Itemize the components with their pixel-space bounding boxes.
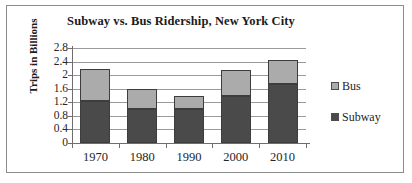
y-axis-tick-mark [68, 48, 73, 49]
x-axis-tick-mark [72, 143, 73, 148]
bar-group [127, 48, 157, 143]
bar-group [80, 48, 110, 143]
legend-swatch-bus [331, 82, 339, 90]
y-axis-tick-mark [68, 89, 73, 90]
x-axis-tick-mark [119, 143, 120, 148]
y-axis-tick-label: 2 [28, 69, 68, 81]
x-axis-tick-mark [306, 143, 307, 148]
bar-segment-bus [268, 60, 298, 84]
x-axis-line [70, 143, 310, 144]
x-axis-tick-label: 1980 [117, 150, 167, 165]
x-axis-tick-mark [166, 143, 167, 148]
bar-segment-bus [174, 96, 204, 110]
x-axis-tick-label: 1990 [164, 150, 214, 165]
y-axis-tick-mark [68, 75, 73, 76]
y-axis-tick-label: 1.2 [28, 96, 68, 108]
y-axis-tick-label: 2.8 [28, 42, 68, 54]
x-axis-tick-label: 2010 [258, 150, 308, 165]
chart-figure: Subway vs. Bus Ridership, New York City … [0, 0, 412, 183]
y-axis-tick-label: 1.6 [28, 83, 68, 95]
y-axis-tick-mark [68, 102, 73, 103]
bar-group [174, 48, 204, 143]
bar-segment-subway [174, 109, 204, 143]
bar-segment-bus [127, 89, 157, 109]
plot-area [72, 48, 306, 143]
legend-swatch-subway [331, 113, 339, 121]
y-axis-tick-labels: 00.40.81.21.622.42.8 [24, 0, 68, 183]
y-axis-tick-mark [68, 129, 73, 130]
y-axis-tick-mark [68, 62, 73, 63]
bar-segment-bus [80, 69, 110, 101]
x-axis-tick-label: 1970 [70, 150, 120, 165]
y-axis-tick-mark [68, 116, 73, 117]
bar-segment-subway [221, 96, 251, 144]
bar-segment-subway [268, 84, 298, 143]
chart-legend: BusSubway [331, 80, 401, 142]
bar-segment-subway [127, 109, 157, 143]
legend-label-subway: Subway [342, 110, 381, 125]
x-axis-tick-mark [259, 143, 260, 148]
legend-label-bus: Bus [342, 79, 361, 94]
x-axis-tick-label: 2000 [211, 150, 261, 165]
legend-item: Bus [331, 80, 401, 92]
bar-group [268, 48, 298, 143]
legend-item: Subway [331, 111, 401, 123]
bar-segment-bus [221, 70, 251, 95]
x-axis-tick-mark [212, 143, 213, 148]
y-axis-tick-label: 2.4 [28, 56, 68, 68]
y-axis-tick-label: 0.8 [28, 110, 68, 122]
bar-group [221, 48, 251, 143]
y-axis-tick-label: 0 [28, 137, 68, 149]
bar-segment-subway [80, 101, 110, 143]
y-axis-tick-label: 0.4 [28, 123, 68, 135]
